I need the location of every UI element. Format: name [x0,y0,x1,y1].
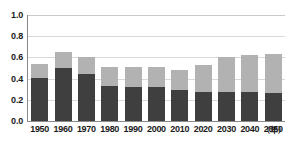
bar [195,65,212,121]
y-axis-tick-label: 0.4 [11,74,23,84]
bar [78,57,95,121]
bar [125,67,142,121]
bar [218,57,235,121]
bar-segment-lower [148,87,165,121]
y-axis-tick-label: 1.0 [11,10,23,20]
x-axis-tick-label: 1970 [77,124,94,134]
y-axis-tick-label: 0.2 [11,95,23,105]
x-axis-tick-label: 2020 [194,124,211,134]
bar-segment-upper [125,67,142,87]
y-axis-tick-label: 0.8 [11,31,23,41]
y-axis-tick-label: 0.0 [11,116,23,126]
bar-segment-upper [148,67,165,87]
title-fragment: — [70,0,79,4]
bar-segment-lower [55,68,72,121]
title-fragments: ———— [0,0,292,7]
bar-segment-lower [171,90,188,121]
bar-segment-lower [125,87,142,121]
y-axis-labels: 1.00.80.60.40.20.0 [0,0,26,143]
bar [101,67,118,121]
bar [265,54,282,121]
bar-segment-upper [241,55,258,92]
bar-series [28,15,285,121]
chart-container: ———— 1.00.80.60.40.20.0 1950196019701980… [0,0,292,143]
bar [31,64,48,121]
x-axis-tick-label: 2040 [240,124,257,134]
bar-segment-upper [101,67,118,86]
bar-segment-upper [218,57,235,91]
bar [55,52,72,121]
x-axis-unit-label: （年） [262,124,286,135]
bar-segment-upper [31,64,48,77]
x-axis-tick-label: 2010 [170,124,187,134]
bar-segment-lower [218,92,235,121]
bar-segment-lower [241,92,258,121]
plot-area [27,15,285,122]
y-axis-tick-label: 0.6 [11,52,23,62]
bar [241,55,258,121]
bar [171,70,188,121]
bar-segment-lower [195,92,212,121]
bar-segment-lower [78,74,95,121]
bar-segment-lower [31,78,48,121]
bar [148,67,165,121]
bar-segment-lower [101,86,118,122]
x-axis-labels: 1950196019701980199020002010202020302040… [27,124,284,138]
x-axis-tick-label: 1960 [54,124,71,134]
bar-segment-upper [171,70,188,90]
bar-segment-upper [195,65,212,92]
x-axis-tick-label: 1950 [30,124,47,134]
x-axis-tick-label: 1980 [100,124,117,134]
x-axis-tick-label: 2030 [217,124,234,134]
bar-segment-lower [265,93,282,121]
x-axis-tick-label: 1990 [124,124,141,134]
bar-segment-upper [78,57,95,74]
x-axis-tick-label: 2000 [147,124,164,134]
bar-segment-upper [265,54,282,94]
bar-segment-upper [55,52,72,68]
